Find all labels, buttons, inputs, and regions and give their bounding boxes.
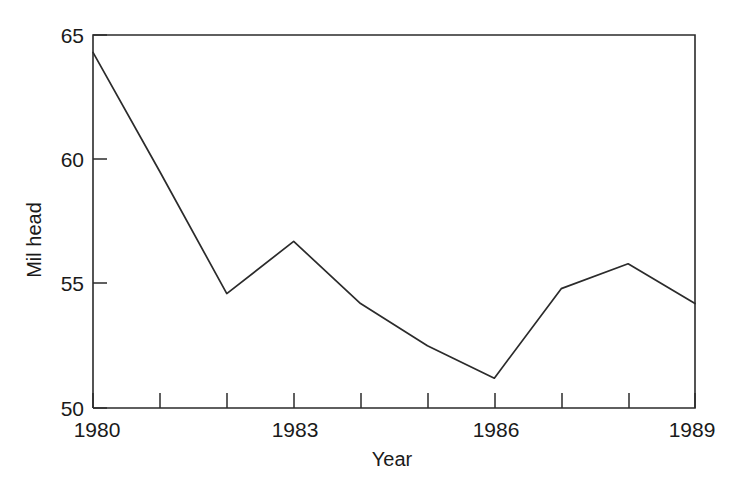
x-tick-label-1986: 1986 <box>473 418 520 441</box>
data-series-line <box>93 52 695 378</box>
y-tick-label-50: 50 <box>61 397 84 420</box>
y-tick-label-65: 65 <box>61 24 84 47</box>
y-tick-label-55: 55 <box>61 272 84 295</box>
x-axis-ticks <box>93 393 695 408</box>
x-tick-label-1989: 1989 <box>669 418 716 441</box>
y-axis-title: Mil head <box>23 202 45 278</box>
x-axis-title: Year <box>372 448 413 470</box>
line-chart: 65 60 55 50 1980 1983 1986 1989 Year Mil… <box>0 0 743 479</box>
y-tick-label-60: 60 <box>61 148 84 171</box>
x-tick-label-1983: 1983 <box>272 418 319 441</box>
chart-figure: 65 60 55 50 1980 1983 1986 1989 Year Mil… <box>0 0 743 479</box>
plot-frame <box>93 35 695 408</box>
x-tick-label-1980: 1980 <box>74 418 121 441</box>
y-axis-ticks <box>93 35 107 408</box>
